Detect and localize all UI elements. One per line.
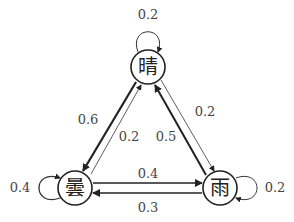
edge-sunny-rainy — [161, 80, 214, 171]
prob-label: 0.2 — [195, 104, 216, 119]
prob-label: 0.5 — [156, 129, 177, 144]
prob-label: 0.4 — [138, 166, 159, 181]
edge-cloudy-cloudy — [39, 176, 60, 199]
prob-label: 0.6 — [78, 112, 99, 127]
prob-label: 0.2 — [138, 7, 159, 22]
node-cloudy: 曇 — [58, 171, 92, 205]
node-label: 雨 — [210, 176, 230, 200]
edge-sunny-sunny — [136, 32, 159, 52]
prob-label: 0.3 — [138, 200, 159, 215]
node-label: 晴 — [138, 55, 158, 79]
prob-label: 0.2 — [265, 180, 286, 195]
markov-diagram: 晴 曇 雨 0.2 0.6 0.2 0.5 0.2 0.4 0.3 0.4 0.… — [0, 0, 294, 222]
prob-label: 0.4 — [10, 180, 31, 195]
prob-label: 0.2 — [119, 129, 140, 144]
node-label: 曇 — [65, 176, 85, 200]
edge-rainy-rainy — [236, 176, 257, 199]
node-rainy: 雨 — [203, 171, 237, 205]
node-sunny: 晴 — [131, 50, 165, 84]
